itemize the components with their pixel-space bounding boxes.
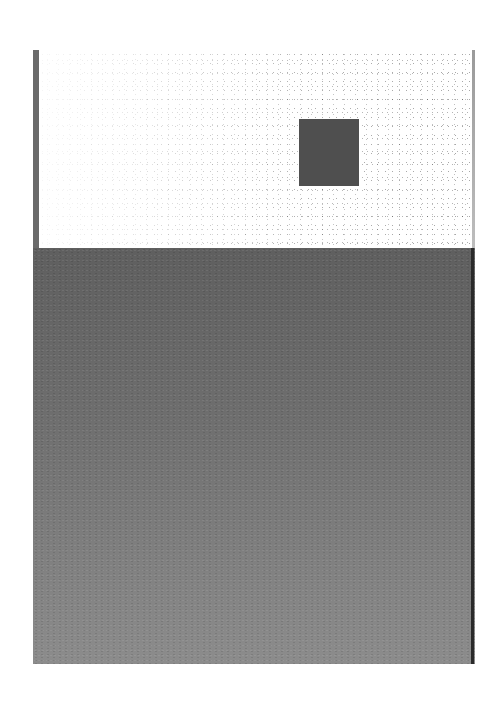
- top-panel-right-edge: [472, 50, 475, 248]
- scanned-page: [0, 0, 500, 712]
- gray-bottom-field: [33, 248, 475, 664]
- dark-square: [299, 119, 359, 186]
- speckle-fade-overlay: [39, 50, 475, 248]
- bottom-field-right-edge: [471, 248, 474, 664]
- speckled-top-panel: [39, 50, 475, 248]
